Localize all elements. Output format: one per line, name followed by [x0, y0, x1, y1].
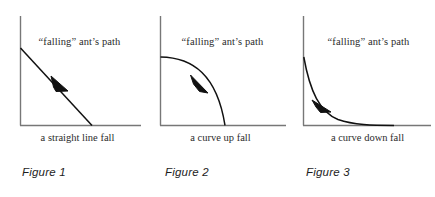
panel-caption: a curve up fall	[145, 132, 290, 143]
panel-caption: a curve down fall	[290, 132, 435, 143]
path-curve	[304, 57, 394, 125]
figure-panel-1: “falling” ant’s path a straight line fal…	[0, 0, 145, 197]
path-annotation-label: “falling” ant’s path	[290, 36, 435, 47]
direction-arrowhead-icon	[312, 100, 331, 113]
ant-path-concave-decay	[304, 57, 394, 125]
ant-path-convex-arc	[161, 57, 226, 125]
figure-number-label: Figure 1	[0, 166, 145, 178]
direction-arrowhead-icon	[191, 75, 209, 93]
figure-panel-3: “falling” ant’s path a curve down fall F…	[290, 0, 435, 197]
axes-group	[20, 16, 141, 126]
panel-2-diagram	[145, 0, 290, 140]
panel-1-diagram	[0, 0, 145, 140]
figure-number-label: Figure 2	[145, 166, 290, 178]
ant-path-straight	[21, 48, 93, 126]
figure-number-label: Figure 3	[290, 166, 435, 178]
path-annotation-label: “falling” ant’s path	[0, 36, 145, 47]
figure-row: “falling” ant’s path a straight line fal…	[0, 0, 435, 197]
axes-group	[160, 16, 286, 126]
direction-arrowhead-icon	[51, 76, 68, 92]
panel-3-diagram	[290, 0, 435, 140]
panel-caption: a straight line fall	[0, 132, 145, 143]
path-curve	[161, 57, 226, 125]
figure-panel-2: “falling” ant’s path a curve up fall Fig…	[145, 0, 290, 197]
path-annotation-label: “falling” ant’s path	[145, 36, 290, 47]
